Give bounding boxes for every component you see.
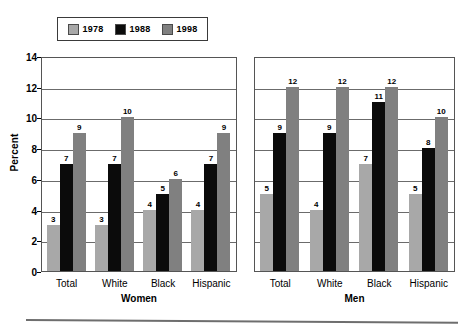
bar-group-women-black: 456: [139, 58, 187, 271]
bar-fill: [121, 117, 134, 271]
bar-fill: [217, 133, 230, 271]
bar-women-white-1988: 7: [108, 56, 121, 271]
y-tick-mark-0: [37, 272, 41, 273]
y-tick-label-8: 8: [19, 144, 37, 155]
bar-men-hispanic-1978: 5: [409, 56, 422, 271]
x-tick-label-men-white: White: [317, 278, 343, 289]
bar-men-black-1978: 7: [359, 56, 372, 271]
y-tick-label-4: 4: [19, 205, 37, 216]
legend-item-1998: 1998: [162, 24, 198, 35]
bar-fill: [47, 225, 60, 271]
bar-men-hispanic-1998: 10: [435, 56, 448, 271]
bar-men-black-1998: 12: [385, 56, 398, 271]
bar-women-black-1978: 4: [143, 56, 156, 271]
bar-fill: [108, 164, 121, 272]
bar-group-women-total: 379: [42, 58, 90, 271]
bar-value-label: 4: [196, 200, 200, 209]
plot-area-women: 3793710456479: [42, 58, 236, 271]
bar-value-label: 9: [278, 123, 282, 132]
bar-women-black-1988: 5: [156, 56, 169, 271]
bar-men-total-1998: 12: [286, 56, 299, 271]
chart-legend: 1978 1988 1998: [57, 17, 208, 41]
y-tick-label-0: 0: [19, 267, 37, 278]
bar-women-total-1978: 3: [47, 56, 60, 271]
bar-value-label: 7: [112, 154, 116, 163]
bar-fill: [204, 164, 217, 272]
bar-men-total-1988: 9: [273, 56, 286, 271]
bar-fill: [73, 133, 86, 271]
x-tick-label-women-black: Black: [151, 278, 175, 289]
bar-value-label: 9: [222, 123, 226, 132]
bar-value-label: 10: [123, 107, 132, 116]
bar-fill: [143, 210, 156, 271]
x-tick-label-men-black: Black: [367, 278, 391, 289]
bar-fill: [310, 210, 323, 271]
bar-fill: [372, 102, 385, 271]
y-tick-label-6: 6: [19, 174, 37, 185]
bar-men-black-1988: 11: [372, 56, 385, 271]
bar-fill: [359, 164, 372, 272]
bar-fill: [435, 117, 448, 271]
bar-group-men-hispanic: 5810: [404, 58, 454, 271]
bar-value-label: 3: [99, 215, 103, 224]
bar-fill: [95, 225, 108, 271]
bar-fill: [260, 194, 273, 271]
bar-women-total-1998: 9: [73, 56, 86, 271]
bar-fill: [323, 133, 336, 271]
x-tick-label-men-total: Total: [270, 278, 291, 289]
bar-value-label: 12: [338, 77, 347, 86]
bar-fill: [191, 210, 204, 271]
y-tick-label-12: 12: [19, 82, 37, 93]
bar-fill: [286, 87, 299, 271]
bar-value-label: 7: [364, 154, 368, 163]
x-tick-label-women-hispanic: Hispanic: [192, 278, 230, 289]
bar-women-white-1998: 10: [121, 56, 134, 271]
bar-women-hispanic-1978: 4: [191, 56, 204, 271]
bar-value-label: 4: [147, 200, 151, 209]
bar-value-label: 5: [413, 184, 417, 193]
bar-women-black-1998: 6: [169, 56, 182, 271]
legend-swatch-1998: [162, 24, 173, 35]
bar-women-white-1978: 3: [95, 56, 108, 271]
bar-fill: [169, 179, 182, 271]
panel-title-men: Men: [345, 293, 365, 304]
bar-value-label: 10: [437, 107, 446, 116]
bar-fill: [336, 87, 349, 271]
bar-value-label: 11: [375, 92, 383, 101]
bar-men-white-1998: 12: [336, 56, 349, 271]
bar-fill: [60, 164, 73, 272]
bar-men-hispanic-1988: 8: [422, 56, 435, 271]
plot-area-men: 59124912711125810: [255, 58, 454, 271]
x-tick-label-women-total: Total: [56, 278, 77, 289]
bar-value-label: 8: [426, 138, 430, 147]
bar-group-men-white: 4912: [305, 58, 355, 271]
bar-value-label: 12: [288, 77, 297, 86]
bar-fill: [409, 194, 422, 271]
bar-value-label: 7: [64, 154, 68, 163]
x-tick-label-men-hispanic: Hispanic: [410, 278, 448, 289]
bar-value-label: 9: [77, 123, 81, 132]
bar-chart-figure: 1978 1988 1998 Percent 14121086420 37937…: [0, 0, 474, 330]
legend-swatch-1988: [115, 24, 126, 35]
bar-group-women-hispanic: 479: [187, 58, 235, 271]
bar-group-men-total: 5912: [255, 58, 305, 271]
panel-title-women: Women: [121, 293, 157, 304]
panel-men: 59124912711125810: [254, 57, 455, 272]
y-axis: 14121086420: [14, 57, 41, 272]
bar-value-label: 5: [160, 184, 164, 193]
bar-value-label: 9: [327, 123, 331, 132]
y-tick-label-2: 2: [19, 236, 37, 247]
legend-label-1998: 1998: [177, 25, 198, 34]
bar-fill: [385, 87, 398, 271]
bar-fill: [273, 133, 286, 271]
legend-item-1978: 1978: [68, 24, 104, 35]
x-tick-label-women-white: White: [102, 278, 128, 289]
bar-value-label: 5: [265, 184, 269, 193]
footer-divider: [26, 319, 458, 323]
bar-value-label: 3: [51, 215, 55, 224]
y-tick-label-10: 10: [19, 113, 37, 124]
bar-women-total-1988: 7: [60, 56, 73, 271]
bar-women-hispanic-1998: 9: [217, 56, 230, 271]
bar-value-label: 7: [209, 154, 213, 163]
legend-label-1978: 1978: [83, 25, 104, 34]
